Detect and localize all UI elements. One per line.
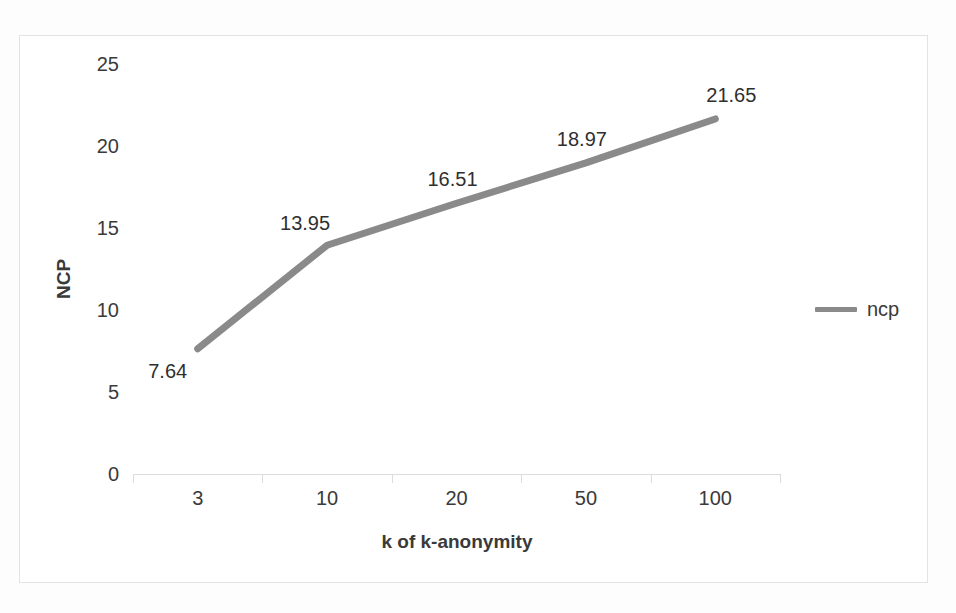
x-axis-tick-label: 50 — [575, 487, 597, 510]
x-axis-title: k of k-anonymity — [133, 531, 781, 553]
data-point-label: 18.97 — [557, 127, 607, 150]
y-axis-tick-label: 0 — [108, 463, 119, 486]
y-axis-tick-label: 15 — [97, 217, 119, 240]
x-axis-tick-mark — [262, 474, 263, 483]
x-axis-tick-mark — [780, 474, 781, 483]
x-axis-tick-mark — [392, 474, 393, 483]
legend: ncp — [815, 298, 899, 321]
x-axis-tick-mark — [133, 474, 134, 483]
data-point-label: 7.64 — [148, 359, 187, 382]
y-axis-title: NCP — [53, 259, 75, 299]
x-axis-line — [133, 474, 781, 475]
y-axis-tick-label: 5 — [108, 381, 119, 404]
legend-label-ncp: ncp — [867, 298, 899, 321]
y-axis-tick-label: 20 — [97, 135, 119, 158]
data-point-label: 16.51 — [427, 168, 477, 191]
x-axis-tick-label: 3 — [192, 487, 203, 510]
series-polyline-ncp — [198, 119, 716, 349]
x-axis-tick-label: 100 — [699, 487, 732, 510]
x-axis-tick-mark — [651, 474, 652, 483]
data-point-label: 13.95 — [280, 212, 330, 235]
legend-swatch-ncp — [815, 307, 857, 312]
x-axis-tick-label: 10 — [316, 487, 338, 510]
y-axis-tick-label: 10 — [97, 299, 119, 322]
figure-container: NCP k of k-anonymity 05101520257.6413.95… — [0, 0, 956, 613]
x-axis-tick-mark — [521, 474, 522, 483]
plot-area: 05101520257.6413.9516.5118.9721.65 — [133, 64, 780, 474]
data-point-label: 21.65 — [706, 83, 756, 106]
x-axis-tick-label: 20 — [445, 487, 467, 510]
series-line-chart — [133, 64, 780, 474]
y-axis-tick-label: 25 — [97, 53, 119, 76]
